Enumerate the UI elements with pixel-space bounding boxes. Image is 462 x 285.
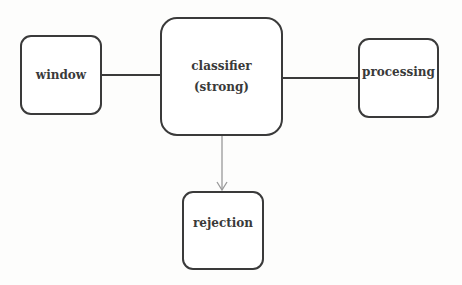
node-classifier-sublabel: (strong): [194, 77, 249, 98]
node-processing-label: processing: [362, 62, 435, 83]
edge-classifier-rejection-arrow: [217, 136, 227, 190]
node-classifier: classifier (strong): [160, 17, 283, 136]
node-rejection: rejection: [182, 191, 264, 270]
diagram-canvas: window classifier (strong) processing re…: [0, 0, 462, 285]
node-window: window: [20, 35, 102, 115]
node-classifier-label: classifier: [191, 56, 251, 77]
node-window-label: window: [36, 65, 86, 86]
node-rejection-label: rejection: [193, 213, 253, 234]
node-processing: processing: [358, 38, 439, 118]
